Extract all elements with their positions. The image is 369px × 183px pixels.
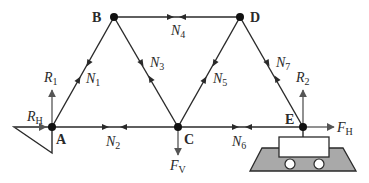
arrow-n2-left	[120, 124, 127, 130]
member-n1	[52, 17, 114, 127]
member-label-n4: N4	[171, 24, 185, 40]
member-n7	[240, 17, 303, 127]
force-label-r1: R1	[44, 71, 58, 87]
node-label-b: B	[92, 11, 101, 25]
arrow-n2-right	[102, 124, 109, 130]
arrow-n6-left	[245, 124, 252, 130]
member-n3	[114, 17, 178, 127]
member-label-n2: N2	[106, 135, 120, 151]
node-a	[48, 123, 56, 131]
arrow-n4-right	[167, 14, 174, 20]
force-label-rh: RH	[27, 110, 43, 126]
force-label-r2: R2	[296, 71, 310, 87]
member-label-n1: N1	[86, 72, 100, 88]
member-label-n3: N3	[150, 56, 164, 72]
node-label-e: E	[285, 113, 294, 127]
arrow-n4-left	[179, 14, 186, 20]
node-c	[174, 123, 182, 131]
member-n5	[178, 17, 240, 127]
node-label-d: D	[250, 11, 260, 25]
node-e	[299, 123, 307, 131]
node-b	[110, 13, 118, 21]
node-label-c: C	[184, 133, 194, 147]
arrow-n6-right	[232, 124, 239, 130]
force-label-fv: FV	[170, 159, 186, 175]
force-label-fh: FH	[337, 121, 353, 137]
member-label-n7: N7	[276, 56, 290, 72]
member-label-n5: N5	[213, 72, 227, 88]
node-label-a: A	[56, 133, 66, 147]
pin-support-a	[14, 127, 52, 153]
member-label-n6: N6	[232, 135, 246, 151]
node-d	[236, 13, 244, 21]
